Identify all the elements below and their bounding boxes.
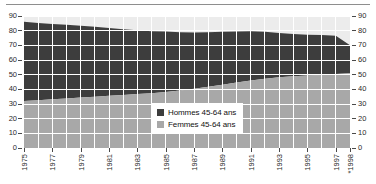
x-axis-tick-label: 1975 <box>20 154 29 171</box>
y-axis-left: 0102030405060708090 <box>0 16 22 148</box>
y-tick-mark <box>352 30 356 31</box>
x-axis-tick-label: 1983 <box>133 154 142 171</box>
y-axis-tick: 40 <box>9 84 22 94</box>
x-axis-tick-label: *1998 <box>346 154 355 174</box>
y-tick-mark <box>352 60 356 61</box>
y-tick-mark <box>18 133 22 134</box>
y-tick-mark <box>18 148 22 149</box>
y-axis-tick: 60 <box>352 55 366 65</box>
y-axis-tick: 50 <box>9 70 22 80</box>
y-axis-tick: 90 <box>9 11 22 21</box>
y-axis-tick: 30 <box>352 99 366 109</box>
y-tick-mark <box>352 45 356 46</box>
x-tick-mark <box>336 148 337 152</box>
y-tick-mark <box>352 148 356 149</box>
x-axis-tick-label: 1989 <box>218 154 227 171</box>
x-axis-tick-label: 1985 <box>161 154 170 171</box>
x-tick-mark <box>307 148 308 152</box>
top-divider <box>6 4 370 5</box>
x-axis-tick-label: 1981 <box>105 154 114 171</box>
x-tick-mark <box>109 148 110 152</box>
x-axis-tick-label: 1991 <box>246 154 255 171</box>
x-tick-mark <box>194 148 195 152</box>
legend-label-femmes: Femmes 45-64 ans <box>168 120 235 129</box>
y-tick-mark <box>18 45 22 46</box>
y-axis-tick: 20 <box>9 114 22 124</box>
y-axis-tick: 80 <box>9 26 22 36</box>
x-tick-mark <box>279 148 280 152</box>
y-axis-tick: 20 <box>352 114 366 124</box>
x-axis-tick-label: 1993 <box>275 154 284 171</box>
y-tick-mark <box>18 30 22 31</box>
y-tick-mark <box>18 60 22 61</box>
y-axis-tick: 50 <box>352 70 366 80</box>
x-tick-mark <box>251 148 252 152</box>
y-tick-mark <box>352 89 356 90</box>
y-axis-right: 0102030405060708090 <box>352 16 376 148</box>
y-tick-mark <box>352 104 356 105</box>
x-tick-mark <box>137 148 138 152</box>
x-axis: 1975197719791981198319851987198919911993… <box>24 148 350 184</box>
x-axis-tick-label: 1979 <box>76 154 85 171</box>
x-axis-tick-label: 1995 <box>303 154 312 171</box>
y-tick-mark <box>352 118 356 119</box>
y-tick-mark <box>18 16 22 17</box>
x-axis-tick-label: 1997 <box>331 154 340 171</box>
y-axis-tick: 0 <box>13 143 22 153</box>
y-axis-tick: 40 <box>352 84 366 94</box>
legend-swatch-femmes <box>157 121 164 128</box>
x-tick-mark <box>166 148 167 152</box>
x-tick-mark <box>222 148 223 152</box>
x-tick-mark <box>24 148 25 152</box>
x-tick-mark <box>350 148 351 152</box>
legend-label-hommes: Hommes 45-64 ans <box>168 108 236 117</box>
x-axis-tick-label: 1987 <box>190 154 199 171</box>
y-tick-mark <box>18 118 22 119</box>
y-axis-tick: 30 <box>9 99 22 109</box>
y-axis-tick: 90 <box>352 11 366 21</box>
y-axis-tick: 10 <box>9 128 22 138</box>
legend-item-hommes: Hommes 45-64 ans <box>157 107 236 118</box>
chart-legend: Hommes 45-64 ans Femmes 45-64 ans <box>152 103 243 134</box>
chart-figure: 0102030405060708090 0102030405060708090 … <box>0 0 376 184</box>
y-axis-tick: 10 <box>352 128 366 138</box>
x-tick-mark <box>52 148 53 152</box>
y-tick-mark <box>18 104 22 105</box>
y-axis-tick: 0 <box>352 143 362 153</box>
y-axis-tick: 70 <box>352 40 366 50</box>
legend-swatch-hommes <box>157 109 164 116</box>
y-axis-tick: 70 <box>9 40 22 50</box>
legend-item-femmes: Femmes 45-64 ans <box>157 119 236 130</box>
y-tick-mark <box>18 89 22 90</box>
y-tick-mark <box>352 16 356 17</box>
x-axis-tick-label: 1977 <box>48 154 57 171</box>
y-axis-tick: 60 <box>9 55 22 65</box>
y-tick-mark <box>352 74 356 75</box>
y-tick-mark <box>352 133 356 134</box>
y-tick-mark <box>18 74 22 75</box>
y-axis-tick: 80 <box>352 26 366 36</box>
x-tick-mark <box>81 148 82 152</box>
